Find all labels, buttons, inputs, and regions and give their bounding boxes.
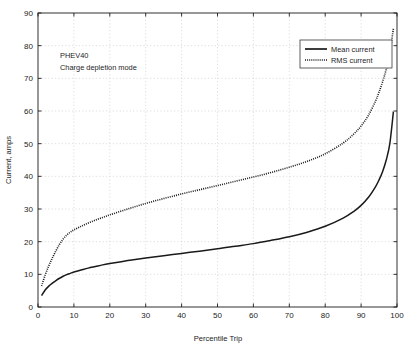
- y-tick-label: 20: [24, 238, 33, 247]
- y-tick-label: 70: [24, 74, 33, 83]
- x-tick-label: 20: [105, 311, 114, 320]
- x-tick-label: 80: [321, 311, 330, 320]
- y-tick-label: 40: [24, 172, 33, 181]
- annotation-line-2: Charge depletion mode: [60, 63, 137, 72]
- legend-label-mean-current: Mean current: [331, 45, 375, 54]
- x-tick-label: 10: [69, 311, 78, 320]
- x-tick-label: 40: [177, 311, 186, 320]
- y-tick-label: 10: [24, 270, 33, 279]
- y-tick-label: 80: [24, 42, 33, 51]
- legend-label-rms-current: RMS current: [331, 56, 372, 65]
- y-tick-label: 0: [29, 303, 34, 312]
- chart-figure: 0102030405060708090100010203040506070809…: [0, 0, 420, 347]
- x-tick-label: 0: [36, 311, 41, 320]
- y-tick-label: 30: [24, 205, 33, 214]
- x-tick-label: 100: [390, 311, 404, 320]
- page-caption-fragment: [4, 340, 416, 347]
- y-tick-label: 90: [24, 9, 33, 18]
- current-vs-percentile-chart: 0102030405060708090100010203040506070809…: [0, 0, 420, 347]
- y-tick-label: 60: [24, 107, 33, 116]
- x-tick-label: 70: [285, 311, 294, 320]
- chart-legend[interactable]: Mean current RMS current: [300, 40, 392, 68]
- y-tick-label: 50: [24, 140, 33, 149]
- x-tick-label: 60: [249, 311, 258, 320]
- x-tick-label: 50: [213, 311, 222, 320]
- y-axis-title: Current, amps: [4, 136, 13, 184]
- x-tick-label: 90: [357, 311, 366, 320]
- annotation-line-1: PHEV40: [60, 51, 88, 60]
- x-tick-label: 30: [141, 311, 150, 320]
